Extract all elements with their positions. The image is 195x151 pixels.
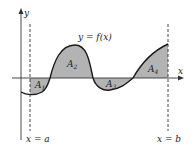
- x-axis-arrow-icon: [178, 76, 184, 81]
- curve-label: y = f(x): [77, 32, 112, 42]
- area-diagram: y = f(x) y x A1 A2 A3 A4 x = a x = b: [0, 0, 195, 151]
- bound-label-b: x = b: [157, 134, 181, 144]
- y-axis-label: y: [23, 8, 30, 18]
- x-axis-label: x: [178, 66, 183, 76]
- bound-label-a: x = a: [26, 134, 50, 144]
- y-axis-arrow-icon: [19, 8, 24, 14]
